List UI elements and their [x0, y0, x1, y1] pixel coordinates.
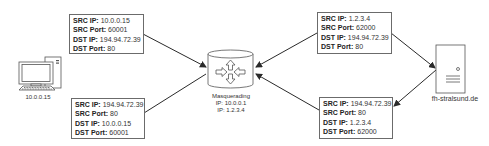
packet-row: SRC IP: 10.0.0.15	[73, 16, 140, 25]
packet-row: SRC IP: 194.94.72.39	[323, 99, 389, 108]
router-label: Masquerading IP: 10.0.0.1 IP: 1.2.3.4	[205, 93, 257, 114]
router-label-ip-internal: IP: 10.0.0.1	[205, 100, 257, 107]
router-icon	[208, 50, 253, 88]
client-label: 10.0.0.15	[22, 94, 54, 101]
packet-row: DST Port: 60001	[75, 128, 141, 137]
router-label-ip-external: IP: 1.2.3.4	[205, 107, 257, 114]
packet-box-client-to-router: SRC IP: 10.0.0.15 SRC Port: 60001 DST IP…	[69, 14, 144, 54]
packet-row: SRC Port: 60001	[73, 25, 140, 34]
packet-row: SRC Port: 80	[75, 109, 141, 118]
packet-row: SRC Port: 62000	[321, 23, 388, 32]
packet-row: SRC IP: 194.94.72.39	[75, 100, 141, 109]
packet-box-router-to-server: SRC IP: 1.2.3.4 SRC Port: 62000 DST IP: …	[317, 12, 392, 54]
server-icon	[436, 45, 465, 93]
server-label: fh-stralsund.de	[424, 95, 486, 102]
desktop-computer-icon	[19, 57, 61, 90]
packet-row: DST IP: 194.94.72.39	[321, 33, 388, 42]
packet-row: DST IP: 1.2.3.4	[323, 118, 389, 127]
packet-row: DST Port: 62000	[323, 127, 389, 136]
packet-box-router-to-client: SRC IP: 194.94.72.39 SRC Port: 80 DST IP…	[71, 98, 145, 139]
packet-row: DST IP: 10.0.0.15	[75, 119, 141, 128]
arrow-box3-to-router	[256, 33, 317, 67]
packet-row: DST Port: 80	[73, 44, 140, 53]
packet-row: DST IP: 194.94.72.39	[73, 35, 140, 44]
arrow-router-to-client	[144, 74, 206, 113]
router-label-name: Masquerading	[205, 93, 257, 100]
packet-row: SRC Port: 80	[323, 108, 389, 117]
arrow-box4-to-router	[256, 74, 319, 110]
arrow-box3-to-server	[391, 33, 435, 68]
arrow-client-to-router	[143, 34, 206, 67]
packet-row: DST Port: 80	[321, 42, 388, 51]
packet-row: SRC IP: 1.2.3.4	[321, 14, 388, 23]
packet-box-server-to-router: SRC IP: 194.94.72.39 SRC Port: 80 DST IP…	[319, 97, 393, 139]
